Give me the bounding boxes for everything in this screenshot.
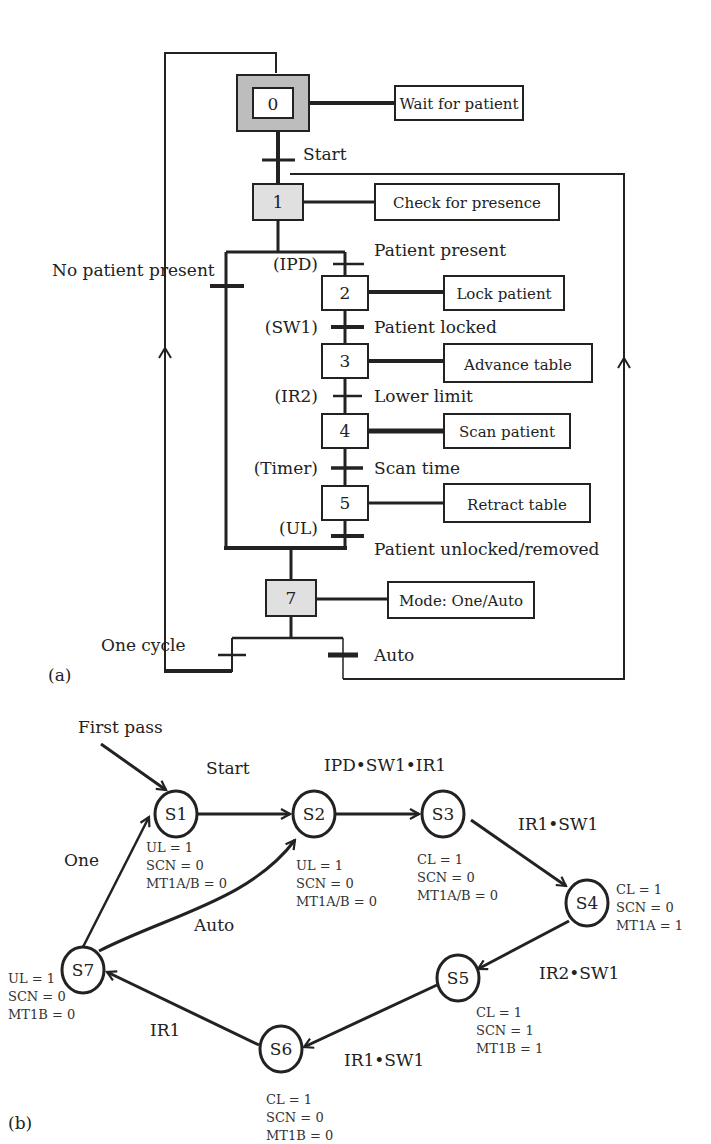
s4-outputs: CL = 1 SCN = 0 MT1A = 1 [616,882,683,933]
edge-s3-s4-label: IR1•SW1 [518,814,598,834]
edge-s7-s1 [83,817,149,947]
action-text-2: Lock patient [456,285,551,303]
s2-outputs: UL = 1 SCN = 0 MT1A/B = 0 [296,858,377,909]
s5-output-cl: CL = 1 [476,1005,522,1020]
state-s4: S4 [566,880,608,926]
return-loop-left [165,53,276,672]
state-s1-label: S1 [165,804,187,824]
step-0-label: 0 [268,94,279,114]
transition-ul-signal: (UL) [279,518,318,538]
s7-output-scn: SCN = 0 [8,989,66,1004]
s2-output-ul: UL = 1 [296,858,343,873]
s2-output-scn: SCN = 0 [296,876,354,891]
s5-output-mt: MT1B = 1 [476,1041,543,1056]
action-text-3: Advance table [463,356,572,374]
panel-a-caption: (a) [48,665,71,685]
transition-ir2-signal: (IR2) [274,386,318,406]
s5-output-scn: SCN = 1 [476,1023,534,1038]
s1-output-scn: SCN = 0 [146,858,204,873]
state-s6-label: S6 [270,1039,292,1059]
step-3-label: 3 [340,351,351,371]
transition-start-label: Start [303,144,347,164]
s3-output-mt: MT1A/B = 0 [417,888,498,903]
action-text-4: Scan patient [459,423,555,441]
edge-s1-s2-label: Start [206,758,250,778]
first-pass-label: First pass [78,717,163,737]
edge-s6-s7-label: IR1 [150,1020,180,1040]
first-pass-arrow [101,744,166,790]
step-5-label: 5 [340,493,351,513]
diagram-svg: 0 Wait for patient Start 1 Check for pre… [0,0,711,1144]
transition-sw1-label: Patient locked [374,317,497,337]
state-s2: S2 [293,791,335,837]
s6-outputs: CL = 1 SCN = 0 MT1B = 0 [266,1092,333,1143]
action-text-1: Check for presence [393,194,541,212]
s3-output-cl: CL = 1 [417,852,463,867]
panel-b-caption: (b) [8,1113,32,1133]
state-s5: S5 [437,955,479,1001]
s4-output-mt: MT1A = 1 [616,918,683,933]
s5-outputs: CL = 1 SCN = 1 MT1B = 1 [476,1005,543,1056]
figure: 0 Wait for patient Start 1 Check for pre… [0,0,711,1144]
edge-s4-s5-label: IR2•SW1 [539,963,619,983]
transition-auto-label: Auto [373,645,414,665]
transition-ir2-label: Lower limit [374,386,473,406]
s7-output-ul: UL = 1 [8,971,55,986]
edge-s4-s5 [478,921,569,969]
transition-one-cycle-label: One cycle [101,635,186,655]
s7-output-mt: MT1B = 0 [8,1007,75,1022]
action-text-7: Mode: One/Auto [399,592,523,610]
edge-s7-s1-label: One [64,850,99,870]
state-s2-label: S2 [303,804,325,824]
step-7-label: 7 [286,588,297,608]
state-diagram-panel: First pass S1 S2 S3 S4 S5 S6 S7 [8,717,683,1143]
edge-s5-s6-label: IR1•SW1 [344,1050,424,1070]
action-text-0: Wait for patient [399,95,518,113]
transition-ipd-label: Patient present [374,240,506,260]
edge-s2-s3-label: IPD•SW1•IR1 [324,755,446,775]
s1-output-ul: UL = 1 [146,840,193,855]
state-s6: S6 [260,1026,302,1072]
state-s3-label: S3 [432,804,454,824]
state-s4-label: S4 [576,893,598,913]
transition-timer-label: Scan time [374,458,460,478]
s1-output-mt: MT1A/B = 0 [146,876,227,891]
step-4-label: 4 [340,421,351,441]
transition-sw1-signal: (SW1) [265,317,318,337]
state-s5-label: S5 [447,968,469,988]
state-s3: S3 [422,791,464,837]
step-2-label: 2 [340,283,351,303]
grafcet-panel: 0 Wait for patient Start 1 Check for pre… [48,53,630,685]
s6-output-mt: MT1B = 0 [266,1128,333,1143]
transition-no-patient-label: No patient present [52,260,215,280]
s3-outputs: CL = 1 SCN = 0 MT1A/B = 0 [417,852,498,903]
s3-output-scn: SCN = 0 [417,870,475,885]
transition-timer-signal: (Timer) [254,458,318,478]
state-s7-label: S7 [72,960,94,980]
edge-s6-s7 [107,972,259,1045]
state-s7: S7 [62,947,104,993]
s6-output-cl: CL = 1 [266,1092,312,1107]
s1-outputs: UL = 1 SCN = 0 MT1A/B = 0 [146,840,227,891]
action-text-5: Retract table [467,496,567,514]
s4-output-scn: SCN = 0 [616,900,674,915]
transition-ul-label: Patient unlocked/removed [374,539,600,559]
state-s1: S1 [155,791,197,837]
step-1-label: 1 [273,192,284,212]
edge-s7-s2-label: Auto [193,915,234,935]
transition-ipd-signal: (IPD) [273,254,318,274]
s2-output-mt: MT1A/B = 0 [296,894,377,909]
s6-output-scn: SCN = 0 [266,1110,324,1125]
s4-output-cl: CL = 1 [616,882,662,897]
edge-s5-s6 [304,985,437,1047]
